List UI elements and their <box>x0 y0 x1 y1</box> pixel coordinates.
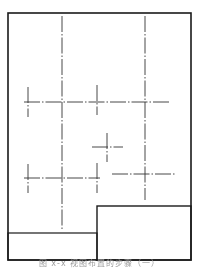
centerlines-group <box>24 16 175 230</box>
drawing-sheet <box>0 0 199 268</box>
figure-caption: 图 x-x 视图布置的步骤（一） <box>0 257 199 268</box>
title-block-left-strip <box>8 233 97 260</box>
drawing-frame <box>8 13 191 260</box>
title-block-right <box>97 206 191 260</box>
outer-border <box>8 13 191 260</box>
